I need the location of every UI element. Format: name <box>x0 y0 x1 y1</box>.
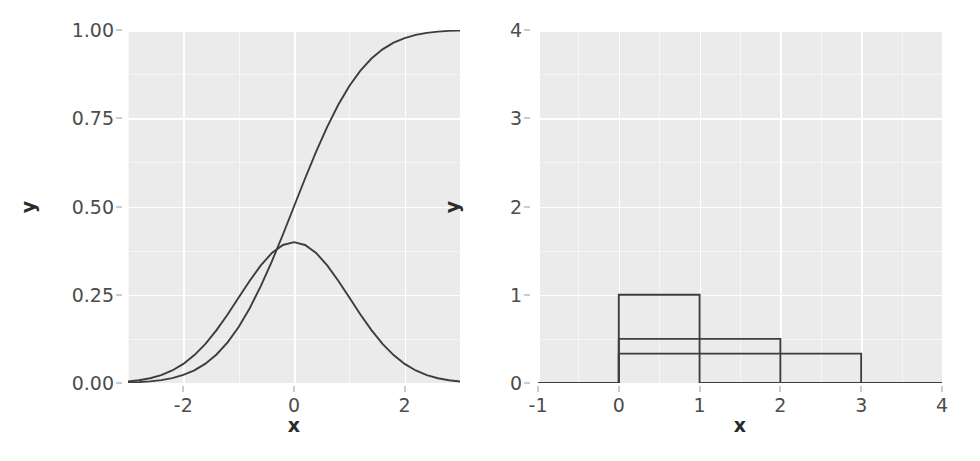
y-tick-mark <box>524 383 530 384</box>
x-tick-mark <box>294 386 295 392</box>
y-axis-ticks-right: 01234 <box>470 30 532 383</box>
x-tick-label: 4 <box>936 394 948 416</box>
y-axis-title-right-text: y <box>441 200 463 212</box>
series-uniform-0-3-pdf <box>538 354 942 383</box>
x-tick-mark <box>404 386 405 392</box>
y-tick-label: 0.50 <box>72 196 114 218</box>
x-tick-mark <box>538 386 539 392</box>
data-lines-right <box>538 30 942 383</box>
x-tick-label: 3 <box>855 394 867 416</box>
y-tick-mark <box>116 383 122 384</box>
y-tick-mark <box>116 294 122 295</box>
y-axis-title-left-text: y <box>17 200 39 212</box>
series-normal-pdf <box>128 242 460 381</box>
y-tick-label: 0 <box>510 372 522 394</box>
y-tick-mark <box>116 30 122 31</box>
y-tick-label: 4 <box>510 19 522 41</box>
x-tick-label: 0 <box>288 394 300 416</box>
x-tick-label: 1 <box>694 394 706 416</box>
y-tick-label: 0.75 <box>72 107 114 129</box>
y-tick-mark <box>116 206 122 207</box>
figure-canvas: y 0.000.250.500.751.00 -202 x y 01234 -1… <box>0 0 980 461</box>
x-tick-mark <box>942 386 943 392</box>
y-tick-label: 0.25 <box>72 284 114 306</box>
x-axis-title-left: x <box>128 414 460 436</box>
y-axis-ticks-left: 0.000.250.500.751.00 <box>46 30 124 383</box>
y-tick-label: 0.00 <box>72 372 114 394</box>
x-tick-mark <box>780 386 781 392</box>
plot-area-left <box>128 30 460 383</box>
y-tick-mark <box>524 206 530 207</box>
series-uniform-0-2-pdf <box>538 339 942 383</box>
x-axis-ticks-left: -202 <box>128 386 460 416</box>
panel-left: y 0.000.250.500.751.00 -202 x <box>0 0 490 461</box>
y-tick-label: 3 <box>510 107 522 129</box>
x-tick-label: 0 <box>613 394 625 416</box>
x-tick-mark <box>618 386 619 392</box>
x-tick-label: -1 <box>529 394 548 416</box>
y-tick-label: 2 <box>510 196 522 218</box>
plot-area-right <box>538 30 942 383</box>
y-axis-title-right: y <box>434 30 470 383</box>
x-axis-title-right: x <box>538 414 942 436</box>
x-tick-label: -2 <box>174 394 193 416</box>
series-normal-cdf <box>128 30 460 382</box>
y-tick-label: 1.00 <box>72 19 114 41</box>
panel-right: y 01234 -101234 x <box>490 0 980 461</box>
y-tick-mark <box>524 30 530 31</box>
y-tick-mark <box>116 118 122 119</box>
x-tick-mark <box>861 386 862 392</box>
x-tick-mark <box>699 386 700 392</box>
x-axis-ticks-right: -101234 <box>538 386 942 416</box>
y-axis-title-left: y <box>10 30 46 383</box>
data-lines-left <box>128 30 460 383</box>
y-tick-label: 1 <box>510 284 522 306</box>
x-tick-label: 2 <box>399 394 411 416</box>
x-tick-label: 2 <box>774 394 786 416</box>
y-tick-mark <box>524 294 530 295</box>
x-tick-mark <box>183 386 184 392</box>
y-tick-mark <box>524 118 530 119</box>
